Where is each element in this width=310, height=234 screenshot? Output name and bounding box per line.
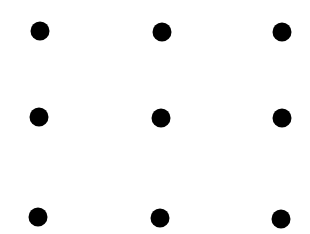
dot-r1-c1 (31, 22, 50, 41)
dot-r2-c1 (30, 108, 49, 127)
dots-group (29, 22, 292, 229)
dot-r2-c3 (273, 109, 292, 128)
dot-r2-c2 (152, 109, 171, 128)
dot-r1-c2 (153, 23, 172, 42)
dot-r3-c1 (29, 208, 48, 227)
dot-grid (0, 0, 310, 234)
dot-r3-c3 (272, 210, 291, 229)
dot-r1-c3 (273, 23, 292, 42)
dot-r3-c2 (151, 209, 170, 228)
